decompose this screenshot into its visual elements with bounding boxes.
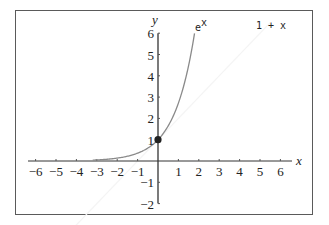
y-tick-label: 4: [148, 69, 155, 84]
y-tick-label: 3: [148, 90, 155, 105]
y-tick-label: 6: [148, 26, 155, 41]
y-tick-label: −1: [140, 175, 154, 190]
x-tick-label: 1: [175, 164, 182, 179]
legend-exp: ex: [195, 17, 207, 33]
x-tick-label: 4: [236, 164, 243, 179]
x-tick-label: −4: [69, 164, 83, 179]
chart-plot: −6−5−4−3−2−1123456−2−1123456 y x ex 1 + …: [0, 0, 329, 225]
legend-1-plus-x: 1 + x: [256, 20, 286, 31]
y-axis-label: y: [150, 12, 158, 27]
x-tick-label: −6: [29, 164, 43, 179]
x-axis-label: x: [295, 153, 302, 168]
x-tick-label: 6: [277, 164, 284, 179]
y-tick-label: −2: [140, 197, 154, 212]
x-tick-label: 2: [196, 164, 203, 179]
y-tick-label: 1: [148, 133, 155, 148]
x-tick-label: 3: [216, 164, 223, 179]
y-tick-label: 2: [148, 111, 155, 126]
tick-labels: −6−5−4−3−2−1123456−2−1123456: [29, 26, 284, 211]
x-tick-label: 5: [257, 164, 264, 179]
x-tick-label: −2: [110, 164, 124, 179]
axes: [28, 33, 292, 203]
series-exp-curve: [93, 33, 195, 160]
y-tick-label: 5: [148, 48, 155, 63]
x-tick-label: −3: [90, 164, 104, 179]
point-0-1: [154, 136, 161, 143]
x-tick-label: −5: [49, 164, 63, 179]
